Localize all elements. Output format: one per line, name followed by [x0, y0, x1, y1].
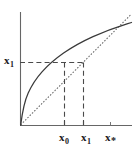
x-axis-tick-label-x0: x0	[59, 132, 69, 146]
x0-label-subscript: 0	[65, 137, 70, 146]
x-axis-tick-label-x-star: x*	[105, 132, 116, 146]
xstar-label-base: x	[105, 131, 111, 143]
plot-canvas	[0, 0, 138, 152]
x1-label-subscript: 1	[87, 137, 92, 146]
fixed-point-iteration-figure: x1 x0 x1 x*	[0, 0, 138, 152]
identity-diagonal-line	[21, 15, 131, 125]
x-axis-tick-label-x1: x1	[81, 132, 91, 146]
x0-label-base: x	[59, 131, 65, 143]
y-axis-label-subscript: 1	[10, 60, 15, 69]
y-axis-tick-label-x1: x1	[4, 55, 14, 69]
xstar-label-subscript: *	[111, 135, 117, 146]
y-axis-label-base: x	[4, 54, 10, 66]
function-curve	[21, 23, 132, 126]
x1-label-base: x	[81, 131, 87, 143]
